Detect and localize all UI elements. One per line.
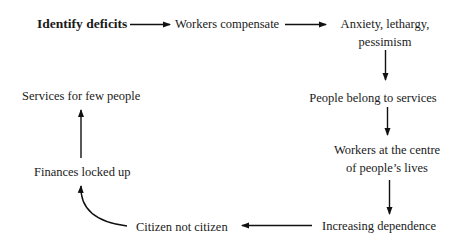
arrows-layer <box>0 0 463 246</box>
edge-citizen-to-finances-curved <box>81 186 127 226</box>
